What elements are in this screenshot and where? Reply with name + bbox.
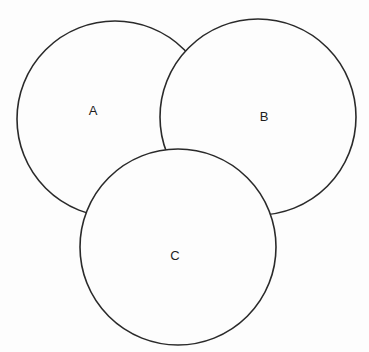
label-b: B bbox=[260, 109, 269, 124]
set-c: C bbox=[80, 149, 276, 345]
label-c: C bbox=[170, 248, 179, 263]
label-a: A bbox=[89, 103, 98, 118]
venn-diagram: A B C bbox=[0, 0, 369, 352]
